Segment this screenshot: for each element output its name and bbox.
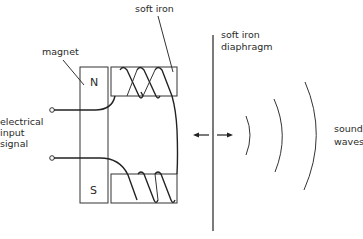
input-signal-label-line1: electrical: [0, 116, 44, 127]
input-wire-top: [54, 96, 115, 110]
magnet-leader-line: [63, 60, 84, 85]
upper-coil: [120, 68, 172, 99]
diaphragm-label-line2: diaphragm: [221, 41, 273, 52]
north-pole-label: N: [90, 76, 98, 89]
diaphragm-label-line1: soft iron: [221, 29, 260, 40]
arrow-right-icon: [227, 133, 233, 138]
soft-iron-leader-line: [158, 16, 173, 72]
input-signal-label-line3: signal: [0, 138, 28, 149]
diagram-canvas: soft iron magnet N S electrical input si…: [0, 0, 363, 239]
lower-coil: [138, 172, 175, 203]
sound-waves-label-line1: sound: [334, 123, 363, 134]
arrow-left-icon: [193, 133, 199, 138]
input-terminal-top: [50, 108, 55, 113]
sound-waves-label-line2: waves: [334, 136, 363, 147]
south-pole-label: S: [90, 184, 97, 197]
coil-connecting-wire: [172, 96, 178, 174]
soft-iron-label: soft iron: [135, 3, 174, 14]
input-terminal-bottom: [50, 156, 55, 161]
input-signal-label-line2: input: [0, 127, 25, 138]
magnet-label: magnet: [42, 46, 79, 57]
sound-wave-arcs: [246, 82, 316, 190]
